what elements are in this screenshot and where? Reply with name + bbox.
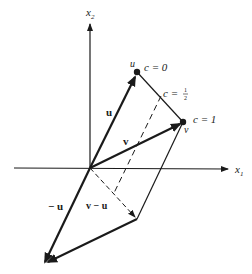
c1-label: c = 1 [193,113,216,125]
parallelogram-side [137,122,183,219]
c-half-numerator: 1 [184,87,187,93]
c-half-denominator: 2 [184,95,187,101]
c0-label: c = 0 [144,61,168,73]
vector-diagram: x2 x1 u c = 0 c = 1 2 v c = 1 u v − u v … [0,0,252,274]
point-v-label: v [184,124,189,135]
vector-u-label: u [106,106,112,118]
vector-neg-u-label: − u [48,200,63,212]
x1-axis-label: x1 [234,163,243,178]
vector-u [90,77,135,168]
x1-axis [14,168,228,169]
point-u [134,69,140,75]
vector-v [90,124,180,168]
x2-axis-label: x2 [85,6,95,21]
c-half-label: c = [163,87,178,99]
vector-v-minus-u-label: v − u [86,200,108,211]
vector-neg-u [45,168,90,262]
vector-v-label: v [123,135,129,147]
point-u-label: u [130,58,135,69]
